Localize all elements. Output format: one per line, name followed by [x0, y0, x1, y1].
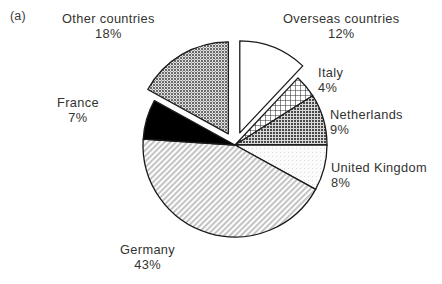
slice-label-italy-pct: 4% [318, 81, 343, 96]
slice-label-overseas-countries: Overseas countries 12% [283, 12, 400, 41]
slice-label-netherlands: Netherlands 9% [330, 108, 403, 137]
slice-label-netherlands-pct: 9% [330, 123, 403, 138]
slice-label-united-kingdom-pct: 8% [331, 176, 427, 191]
slice-label-united-kingdom-name: United Kingdom [331, 160, 427, 175]
slice-label-netherlands-name: Netherlands [330, 107, 403, 122]
slice-label-france-name: France [57, 95, 99, 110]
slice-label-other-countries-pct: 18% [62, 27, 155, 42]
slice-label-italy: Italy 4% [318, 66, 343, 95]
slice-label-united-kingdom: United Kingdom 8% [331, 161, 427, 190]
slice-label-germany: Germany 43% [120, 243, 175, 272]
pie-chart-canvas [0, 0, 442, 284]
slice-label-other-countries: Other countries 18% [62, 12, 155, 41]
slice-label-overseas-countries-pct: 12% [283, 27, 400, 42]
pie-chart-figure: (a) [0, 0, 442, 284]
slice-label-other-countries-name: Other countries [62, 11, 155, 26]
slice-label-overseas-countries-name: Overseas countries [283, 11, 400, 26]
panel-label: (a) [10, 9, 26, 23]
slice-label-italy-name: Italy [318, 65, 343, 80]
slice-label-france: France 7% [57, 96, 99, 125]
slice-label-germany-name: Germany [120, 242, 175, 257]
slice-label-germany-pct: 43% [120, 258, 175, 273]
slice-label-france-pct: 7% [57, 111, 99, 126]
